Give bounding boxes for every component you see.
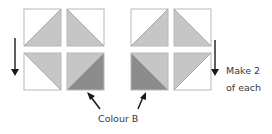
left-group [24,9,104,90]
hst-square-right-bottom-left [131,53,168,90]
colour-b-label: Colour B [98,114,138,124]
right-group [131,9,211,90]
hst-square-right-top-left [131,9,168,46]
hst-square-left-top-left [24,9,61,46]
hst-square-right-bottom-right [174,53,211,90]
hst-square-left-bottom-left [24,53,61,90]
hst-square-left-top-right [67,9,104,46]
right-down-arrow-icon [211,40,219,76]
left-down-arrow-icon [11,38,19,76]
make-count-label-line1: Make 2 [226,66,260,76]
hst-square-right-top-right [174,9,211,46]
colour-b-pointer-left-icon [87,92,100,109]
colour-b-pointer-right-icon [138,92,146,109]
hst-square-left-bottom-right [67,53,104,90]
make-count-label-line2: of each [226,83,261,93]
